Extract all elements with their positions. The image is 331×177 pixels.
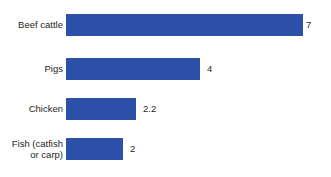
value-label-beef-cattle: 7	[306, 19, 311, 30]
category-label-chicken: Chicken	[0, 103, 63, 114]
bar-chicken	[66, 98, 136, 120]
category-label-beef-cattle: Beef cattle	[0, 19, 63, 30]
bar-row: Beef cattle 7	[0, 14, 331, 36]
bar-fish	[66, 138, 123, 160]
value-label-pigs: 4	[207, 63, 212, 74]
plot-area: Beef cattle 7 Pigs 4 Chicken 2.2 Fish (c…	[0, 0, 331, 177]
value-label-fish: 2	[130, 143, 135, 154]
category-label-fish: Fish (catfish or carp)	[0, 138, 63, 160]
value-label-chicken: 2.2	[143, 103, 156, 114]
category-label-pigs: Pigs	[0, 63, 63, 74]
bar-row: Chicken 2.2	[0, 98, 331, 120]
bar-row: Pigs 4	[0, 58, 331, 80]
bar-row: Fish (catfish or carp) 2	[0, 138, 331, 160]
bar-pigs	[66, 58, 200, 80]
bar-chart: Beef cattle 7 Pigs 4 Chicken 2.2 Fish (c…	[0, 0, 331, 177]
bar-beef-cattle	[66, 14, 303, 36]
